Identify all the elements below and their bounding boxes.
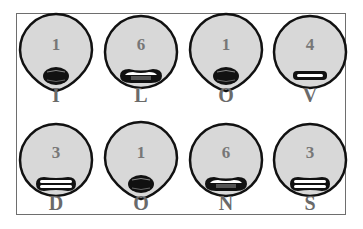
viseme-diagram: 1I6L1O4V3D1O6N3S — [0, 0, 363, 229]
face-i-0: 1I — [20, 14, 92, 106]
mouth-wide-tongue — [205, 177, 247, 191]
letter-label: N — [219, 192, 234, 214]
mouth-round-open — [128, 175, 154, 193]
mouth-wide-tongue — [120, 69, 162, 83]
letter-label: D — [49, 192, 63, 214]
viseme-number: 4 — [306, 35, 315, 54]
mouth-round-open — [213, 67, 239, 85]
viseme-number: 3 — [306, 143, 315, 162]
viseme-number: 3 — [52, 143, 61, 162]
mouth-flat-teeth — [293, 71, 327, 80]
viseme-number: 1 — [137, 143, 146, 162]
viseme-number: 1 — [222, 35, 231, 54]
face-o-2: 1O — [190, 14, 262, 106]
mouth-wide-teeth — [36, 177, 76, 191]
face-v-3: 4V — [274, 16, 346, 106]
mouth-round-open — [43, 67, 69, 85]
letter-label: I — [52, 84, 60, 106]
letter-label: V — [303, 84, 318, 106]
face-l-1: 6L — [105, 16, 177, 106]
letter-label: O — [218, 84, 234, 106]
face-d-4: 3D — [20, 124, 92, 214]
viseme-number: 6 — [222, 143, 231, 162]
face-s-7: 3S — [274, 124, 346, 214]
viseme-number: 1 — [52, 35, 61, 54]
letter-label: S — [304, 192, 315, 214]
face-n-6: 6N — [190, 124, 262, 214]
face-o-5: 1O — [105, 122, 177, 214]
letter-label: L — [134, 84, 147, 106]
viseme-number: 6 — [137, 35, 146, 54]
letter-label: O — [133, 192, 149, 214]
mouth-wide-teeth — [290, 177, 330, 191]
